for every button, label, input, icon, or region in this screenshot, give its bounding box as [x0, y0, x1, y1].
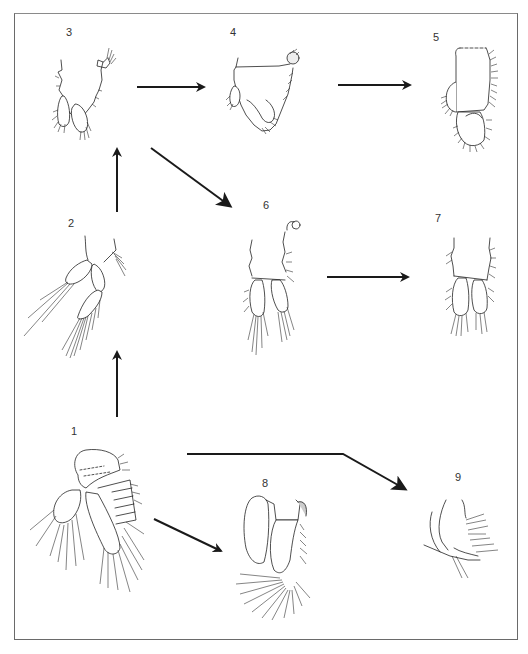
panel-label-8: 8 — [262, 478, 268, 489]
appendage-5-drawing — [441, 48, 498, 152]
panel-label-3: 3 — [66, 27, 72, 38]
panel-label-4: 4 — [230, 27, 236, 38]
panel-label-5: 5 — [433, 32, 439, 43]
appendage-6-drawing — [243, 221, 300, 355]
appendage-4-drawing — [226, 49, 299, 134]
panel-label-2: 2 — [68, 218, 74, 229]
diagram-canvas — [0, 0, 528, 654]
panel-label-9: 9 — [455, 472, 461, 483]
appendage-7-drawing — [445, 238, 496, 336]
panel-label-1: 1 — [71, 426, 77, 437]
panel-label-7: 7 — [435, 213, 441, 224]
arrow-1-to-8 — [154, 519, 221, 551]
appendage-3-drawing — [52, 48, 116, 140]
arrow-1-to-9 — [187, 454, 405, 489]
appendage-2-drawing — [24, 236, 126, 358]
panel-label-6: 6 — [263, 200, 269, 211]
appendage-1-drawing — [30, 449, 144, 592]
arrow-3-to-6 — [151, 148, 230, 206]
appendage-8-drawing — [236, 496, 310, 620]
appendage-9-drawing — [424, 500, 498, 578]
